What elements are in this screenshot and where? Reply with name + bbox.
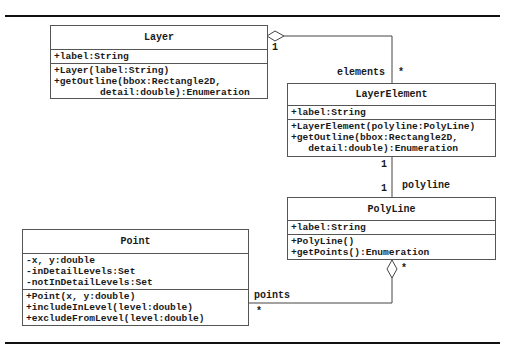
class-polyline[interactable]: PolyLine +label:String +PolyLine()+getPo… <box>287 197 496 260</box>
attributes: +label:String <box>51 50 267 64</box>
role-label: points <box>254 290 290 301</box>
multiplicity-label: 1 <box>381 159 387 170</box>
role-label: elements <box>337 67 385 78</box>
class-name: PolyLine <box>288 198 495 221</box>
multiplicity-label: * <box>401 263 407 274</box>
class-point[interactable]: Point -x, y:double-inDetailLevels:Set-no… <box>22 229 249 326</box>
aggregation-diamond-icon <box>387 260 397 278</box>
operations: +Point(x, y:double)+includeInLevel(level… <box>23 290 248 325</box>
operations: +LayerElement(polyline:PolyLine)+getOutl… <box>288 120 495 155</box>
attributes: +label:String <box>288 221 495 235</box>
class-layer[interactable]: Layer +label:String +Layer(label:String)… <box>50 25 268 99</box>
multiplicity-label: 1 <box>381 183 387 194</box>
operations: +PolyLine()+getPoints():Enumeration <box>288 235 495 259</box>
role-label: polyline <box>402 180 450 191</box>
class-name: Point <box>23 230 248 254</box>
aggregation-diamond-icon <box>267 31 284 41</box>
multiplicity-label: * <box>256 306 262 317</box>
operations: +Layer(label:String)+getOutline(bbox:Rec… <box>51 64 267 99</box>
class-layerelement[interactable]: LayerElement +label:String +LayerElement… <box>287 83 496 157</box>
attributes: -x, y:double-inDetailLevels:Set-notInDet… <box>23 254 248 290</box>
attributes: +label:String <box>288 106 495 120</box>
multiplicity-label: * <box>398 67 404 78</box>
multiplicity-label: 1 <box>272 42 278 53</box>
class-name: LayerElement <box>288 84 495 106</box>
class-name: Layer <box>51 26 267 50</box>
